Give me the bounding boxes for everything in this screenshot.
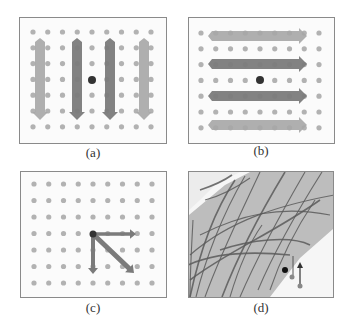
panel-c-grid-dot <box>76 264 81 269</box>
panel-b-grid-dot <box>287 78 292 83</box>
panel-b-grid-dot <box>272 109 277 114</box>
panel-a-grid-dot <box>60 29 65 34</box>
panel-b-grid-dot <box>228 78 233 83</box>
panel-c-grid-dot <box>31 181 36 186</box>
panel-b-right-arrow-light <box>208 117 307 133</box>
panel-b-grid-dot <box>316 30 321 35</box>
panel-a-grid-dot <box>134 29 139 34</box>
panel-a-grid-dot <box>60 93 65 98</box>
panel-d-up-arrow-head <box>297 262 303 268</box>
panel-b-grid-dot <box>198 78 203 83</box>
panel-a-grid-dot <box>89 93 94 98</box>
panel-b-grid-dot <box>213 46 218 51</box>
panel-d-band <box>189 172 334 297</box>
panel-b-grid-dot <box>243 46 248 51</box>
panel-c-grid-dot <box>120 214 125 219</box>
panel-c-grid-dot <box>31 214 36 219</box>
panel-a-grid-dot <box>60 124 65 129</box>
panel-b-grid-dot <box>198 109 203 114</box>
panel-a-down-arrow-dark <box>69 38 85 120</box>
panel-b-grid-dot <box>316 46 321 51</box>
panel-c-grid-dot <box>76 247 81 252</box>
panel-a-grid-dot <box>89 45 94 50</box>
panel-c-grid-dot <box>120 181 125 186</box>
panel-d-label: (d) <box>241 300 281 316</box>
panel-c-grid-dot <box>120 280 125 285</box>
panel-a-grid-dot <box>134 124 139 129</box>
panel-b-grid-dot <box>316 62 321 67</box>
panel-c-grid-dot <box>61 247 66 252</box>
panel-b-grid-dot <box>302 109 307 114</box>
panel-a-grid-dot <box>134 61 139 66</box>
panel-a-grid-dot <box>75 29 80 34</box>
panel-a-grid-dot <box>30 45 35 50</box>
panel-a-grid-dot <box>45 29 50 34</box>
panel-c-diagonal-arrow <box>91 232 134 273</box>
panel-b-right-arrow-dark <box>208 88 307 104</box>
panel-c-grid-dot <box>46 231 51 236</box>
panel-c-grid-dot <box>76 280 81 285</box>
panel-a-grid-dot <box>104 124 109 129</box>
panel-c-grid-dot <box>149 264 154 269</box>
panel-a-grid-dot <box>134 93 139 98</box>
panel-a-grid-dot <box>148 124 153 129</box>
panel-c-grid-dot <box>120 247 125 252</box>
panel-a-grid-dot <box>45 61 50 66</box>
panel-a-grid-dot <box>60 77 65 82</box>
panel-c-grid-dot <box>61 181 66 186</box>
panel-c-grid-dot <box>76 231 81 236</box>
figure-canvas <box>0 0 350 332</box>
panel-c-grid-dot <box>149 247 154 252</box>
panel-c-grid-dot <box>76 198 81 203</box>
panel-c-grid-dot <box>105 181 110 186</box>
panel-c-grid-dot <box>105 280 110 285</box>
panel-c-grid-dot <box>105 198 110 203</box>
panel-b-grid-dot <box>316 109 321 114</box>
panel-a-grid-dot <box>148 29 153 34</box>
panel-c-grid-dot <box>149 231 154 236</box>
panel-b-grid-dot <box>198 94 203 99</box>
panel-b-grid-dot <box>272 78 277 83</box>
panel-d-gray-dot <box>298 284 303 289</box>
panel-c-grid-dot <box>61 214 66 219</box>
panel-c-grid-dot <box>61 264 66 269</box>
panel-b-grid-dot <box>198 62 203 67</box>
panel-c-origin-dot <box>90 231 97 238</box>
panel-c-grid-dot <box>61 198 66 203</box>
panel-c-grid-dot <box>46 247 51 252</box>
panel-a-grid-dot <box>104 29 109 34</box>
panel-b-grid-dot <box>287 46 292 51</box>
panel-b-grid-dot <box>257 109 262 114</box>
panel-a-grid-dot <box>119 124 124 129</box>
panel-b-grid-dot <box>243 109 248 114</box>
panel-c-grid-dot <box>31 280 36 285</box>
panel-c-grid-dot <box>61 231 66 236</box>
panel-a-grid-dot <box>60 108 65 113</box>
panel-a-grid-dot <box>148 77 153 82</box>
panel-c-grid-dot <box>135 214 140 219</box>
panel-c-grid-dot <box>149 181 154 186</box>
panel-c-grid-dot <box>135 231 140 236</box>
panel-b-label: (b) <box>241 143 281 159</box>
panel-c-grid-dot <box>149 198 154 203</box>
panel-a-center-dot <box>88 76 96 84</box>
panel-a-grid-dot <box>45 93 50 98</box>
panel-a-grid-dot <box>60 61 65 66</box>
panel-c-grid-dot <box>46 214 51 219</box>
panel-a-grid-dot <box>119 61 124 66</box>
panel-a-grid-dot <box>119 45 124 50</box>
panel-d-image <box>188 172 334 300</box>
panel-a-grid-dot <box>148 45 153 50</box>
panel-b-center-dot <box>256 76 264 84</box>
panel-a-grid-dot <box>89 61 94 66</box>
panel-d-black-dot <box>282 267 288 273</box>
panel-b-grid-dot <box>316 94 321 99</box>
panel-b-grid-dot <box>316 125 321 130</box>
panel-c-grid-dot <box>76 181 81 186</box>
panel-c-grid-dot <box>90 280 95 285</box>
panel-b-grid-dot <box>198 30 203 35</box>
panel-a-grid-dot <box>89 29 94 34</box>
panel-c-grid-dot <box>105 214 110 219</box>
panel-c-grid-dot <box>120 198 125 203</box>
panel-a-grid-dot <box>45 124 50 129</box>
